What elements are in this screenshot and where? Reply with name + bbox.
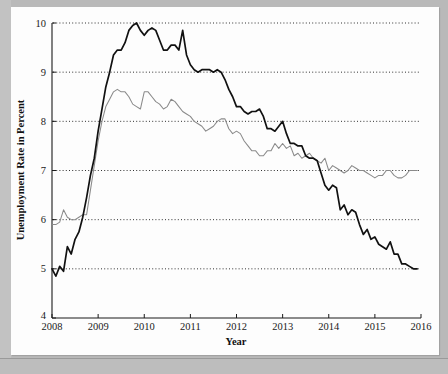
x-tick-label-2014: 2014 <box>318 321 340 332</box>
y-tick-label-5: 5 <box>41 263 46 274</box>
y-tick-label-6: 6 <box>41 214 46 225</box>
x-tick-label-2016: 2016 <box>411 321 432 332</box>
x-tick-label-2015: 2015 <box>364 321 385 332</box>
x-axis-title: Year <box>226 336 247 347</box>
x-tick-label-2009: 2009 <box>88 321 109 332</box>
x-tick-label-2010: 2010 <box>134 321 155 332</box>
series-line-alternative <box>52 89 417 224</box>
x-tick-label-2013: 2013 <box>272 321 293 332</box>
x-tick-label-2008: 2008 <box>42 321 63 332</box>
y-tick-label-4: 4 <box>41 310 47 321</box>
x-axis-tick-labels: 200820092010201120122013201420152016 <box>42 321 432 332</box>
y-axis-tick-labels: 45678910 <box>36 18 47 321</box>
y-axis-title: Unemployment Rate in Percent <box>15 99 26 240</box>
series-line-actual <box>52 23 417 276</box>
x-tick-label-2012: 2012 <box>226 321 247 332</box>
y-tick-label-10: 10 <box>36 18 47 29</box>
x-axis-ticks <box>52 314 421 318</box>
x-tick-label-2011: 2011 <box>180 321 201 332</box>
y-tick-label-8: 8 <box>41 116 46 127</box>
y-tick-label-9: 9 <box>41 67 46 78</box>
y-tick-label-7: 7 <box>41 165 46 176</box>
